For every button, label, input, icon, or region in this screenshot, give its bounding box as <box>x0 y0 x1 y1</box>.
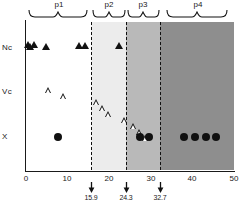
data-point-x <box>202 133 210 141</box>
phase-label-p1: p1 <box>46 0 72 9</box>
series-label-nc: Nc <box>2 44 24 52</box>
phase-brace-p1 <box>28 9 88 18</box>
phase-divider-32.7 <box>160 22 161 170</box>
phase-band-p3 <box>126 22 160 170</box>
x-tick-label-0: 0 <box>14 174 38 183</box>
data-point-nc <box>42 43 50 50</box>
boundary-value-15.9: 15.9 <box>78 194 104 202</box>
data-point-x <box>212 133 220 141</box>
phase-brace-p4 <box>166 9 228 18</box>
boundary-value-32.7: 32.7 <box>147 194 173 202</box>
phase-label-p2: p2 <box>96 0 122 9</box>
x-tick-label-20: 20 <box>97 174 121 183</box>
data-point-vc <box>45 87 51 93</box>
boundary-arrow-24.3 <box>122 182 131 193</box>
scatter-chart-figure: p1 p2 p3 p4 Nc Vc X <box>0 0 248 224</box>
phase-label-p3: p3 <box>130 0 156 9</box>
x-axis-line <box>25 171 235 172</box>
series-label-vc: Vc <box>2 88 24 96</box>
data-point-vc <box>105 111 111 117</box>
data-point-vc <box>121 117 127 123</box>
boundary-arrow-15.9 <box>87 182 96 193</box>
plot-area <box>26 22 234 170</box>
data-point-nc <box>30 41 38 48</box>
phase-brace-p2 <box>92 9 126 18</box>
data-point-nc <box>81 42 89 49</box>
phase-divider-24.3 <box>126 22 127 170</box>
data-point-x <box>136 133 144 141</box>
data-point-nc <box>115 42 123 49</box>
x-tick-label-10: 10 <box>55 174 79 183</box>
data-point-x <box>145 133 153 141</box>
data-point-x <box>191 133 199 141</box>
boundary-arrow-32.7 <box>156 182 165 193</box>
data-point-x <box>180 133 188 141</box>
phase-band-p4 <box>160 22 234 170</box>
phase-brace-p3 <box>127 9 160 18</box>
boundary-value-24.3: 24.3 <box>113 194 139 202</box>
phase-label-p4: p4 <box>185 0 211 9</box>
phase-divider-15.9 <box>91 22 92 170</box>
x-tick-label-40: 40 <box>180 174 204 183</box>
series-label-x: X <box>2 133 24 141</box>
data-point-vc <box>60 93 66 99</box>
data-point-x <box>54 133 62 141</box>
x-tick-label-50: 50 <box>222 174 246 183</box>
